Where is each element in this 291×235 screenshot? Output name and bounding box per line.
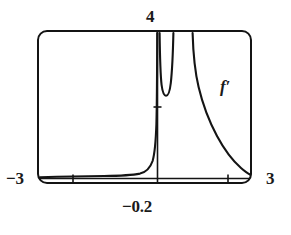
x-center-label: −0.2 — [122, 198, 152, 215]
y-max-label: 4 — [146, 8, 154, 25]
x-min-label: −3 — [6, 170, 24, 187]
x-max-label: 3 — [266, 170, 274, 187]
curve-middle-well — [160, 33, 174, 96]
plot-frame — [38, 31, 251, 183]
curve-left-branch — [40, 33, 157, 177]
curve-right-branch — [193, 33, 251, 175]
figure-container: 4 −3 3 −0.2 f′ — [0, 0, 291, 235]
curve-label-f-prime: f′ — [220, 78, 230, 95]
